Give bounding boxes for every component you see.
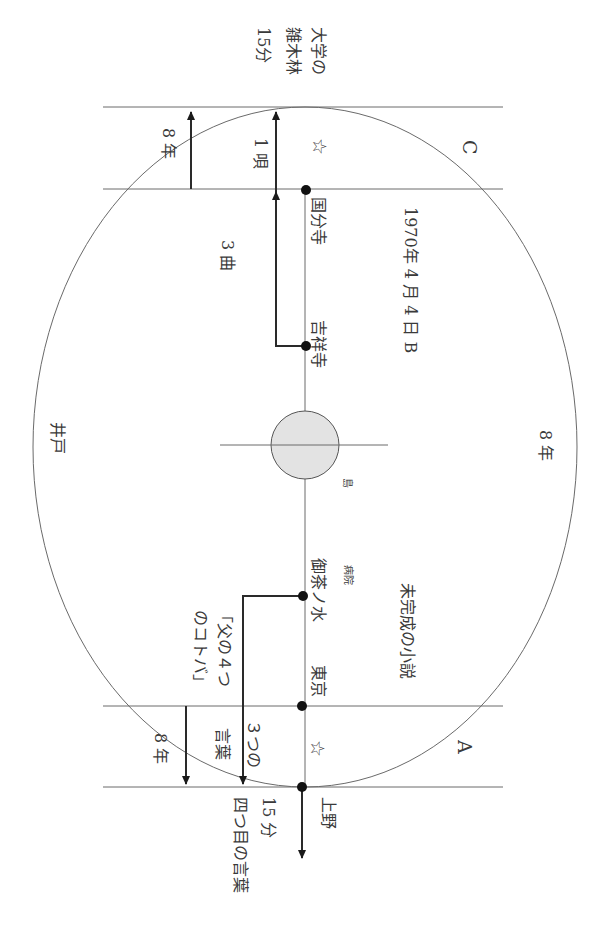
label-fathers-words-1: 「父の４つ: [215, 607, 234, 687]
diagram-canvas: 大学の 雑木林 15分 C 8 年 1 唄 ☆ 国分寺 1970年 4 月 4 …: [0, 0, 601, 935]
station-label-ueno: 上野: [319, 797, 338, 829]
label-eight-years-right: 8 年: [536, 430, 555, 461]
label-unfinished-novel: 未完成の小説: [398, 583, 417, 679]
star-icon-bottom: ☆: [307, 740, 329, 757]
label-one-song: 1 唄: [251, 138, 270, 169]
station-label-ochanomizu: 御茶ノ水: [309, 558, 328, 622]
region-label-a: A: [454, 739, 476, 754]
region-label-b-date: 1970年 4 月 4 日 B: [401, 207, 420, 353]
diagram-svg: 大学の 雑木林 15分 C 8 年 1 唄 ☆ 国分寺 1970年 4 月 4 …: [0, 0, 601, 935]
label-eight-years-top: 8 年: [159, 128, 178, 159]
label-well: 井戸: [48, 422, 67, 454]
station-dot-ochanomizu: [298, 591, 308, 601]
label-three-words-1: ３つの: [244, 720, 263, 768]
star-icon-top: ☆: [309, 138, 331, 155]
path-kichijoji-to-top: [276, 112, 306, 346]
label-fourth-word: 四つ目の言葉: [231, 797, 250, 893]
station-dot-tokyo: [297, 701, 307, 711]
station-label-tokyo: 東京: [309, 665, 328, 697]
label-top-dest-3: 15分: [254, 27, 273, 63]
station-dot-kokubunji: [301, 185, 311, 195]
region-label-c: C: [459, 140, 481, 155]
label-fifteen-min: 15 分: [259, 797, 278, 838]
label-eight-years-bottom: 8 年: [151, 733, 170, 764]
label-three-words-2: 言葉: [213, 728, 232, 760]
label-island: 島: [342, 478, 354, 488]
label-top-dest-1: 大学の: [309, 27, 328, 75]
station-dot-ueno: [297, 782, 307, 792]
label-hospital: 病院: [343, 565, 355, 585]
station-label-kichijoji: 吉祥寺: [309, 320, 328, 368]
station-label-kokubunji: 国分寺: [309, 197, 328, 245]
label-fathers-words-2: のコトバ」: [191, 610, 210, 690]
label-three-songs: 3 曲: [218, 240, 237, 271]
label-top-dest-2: 雑木林: [284, 27, 303, 75]
